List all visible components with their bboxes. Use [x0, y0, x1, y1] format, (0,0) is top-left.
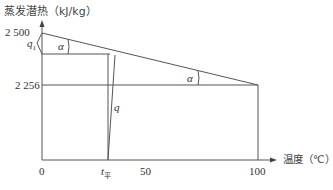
- alpha-label-left: α: [58, 41, 64, 52]
- alpha-arc-left: [68, 39, 69, 54]
- y-axis-arrow-icon: [40, 20, 45, 27]
- x-tick-0: 0: [39, 166, 45, 177]
- y-axis-title: 蒸发潜热（kJ/kg）: [4, 6, 97, 17]
- y-tick-2256: 2 256: [15, 80, 40, 91]
- x-tick-t-ping: t平: [101, 166, 111, 180]
- x-axis-title: 温度（℃）: [283, 154, 333, 165]
- diagram: 蒸发潜热（kJ/kg） 2 500 2 256 q1 α α q 0 t平 50…: [0, 0, 333, 190]
- q1-bracket: [37, 33, 42, 54]
- q1-label: q1: [27, 38, 36, 52]
- q-label: q: [114, 102, 120, 113]
- x-tick-50: 50: [140, 166, 151, 177]
- alpha-label-right: α: [187, 73, 193, 84]
- latent-heat-line: [42, 33, 258, 85]
- x-axis-arrow-icon: [270, 158, 277, 163]
- x-tick-100: 100: [249, 166, 266, 177]
- alpha-arc-right: [198, 71, 199, 85]
